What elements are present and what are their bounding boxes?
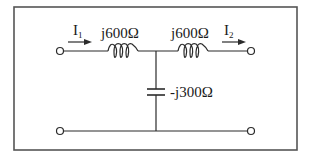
current-i2-label: I2 [224,23,234,40]
inductor-l1-label: j600Ω [101,26,139,41]
terminal-bottom-left-icon [57,128,64,135]
capacitor-c1-label: -j300Ω [170,85,213,100]
circuit-diagram: I1 j600Ω j600Ω I2 -j300Ω [0,0,310,157]
inductor-l2-icon [178,44,208,58]
terminal-top-left-icon [57,48,64,55]
inductor-l1-icon [108,44,138,58]
terminal-top-right-icon [248,48,255,55]
circuit-schematic [0,0,310,157]
current-i2-arrowhead-icon [238,39,246,45]
current-i1-label: I1 [73,23,83,40]
inductor-l2-label: j600Ω [171,26,209,41]
current-i1-arrowhead-icon [84,39,92,45]
terminal-bottom-right-icon [248,128,255,135]
